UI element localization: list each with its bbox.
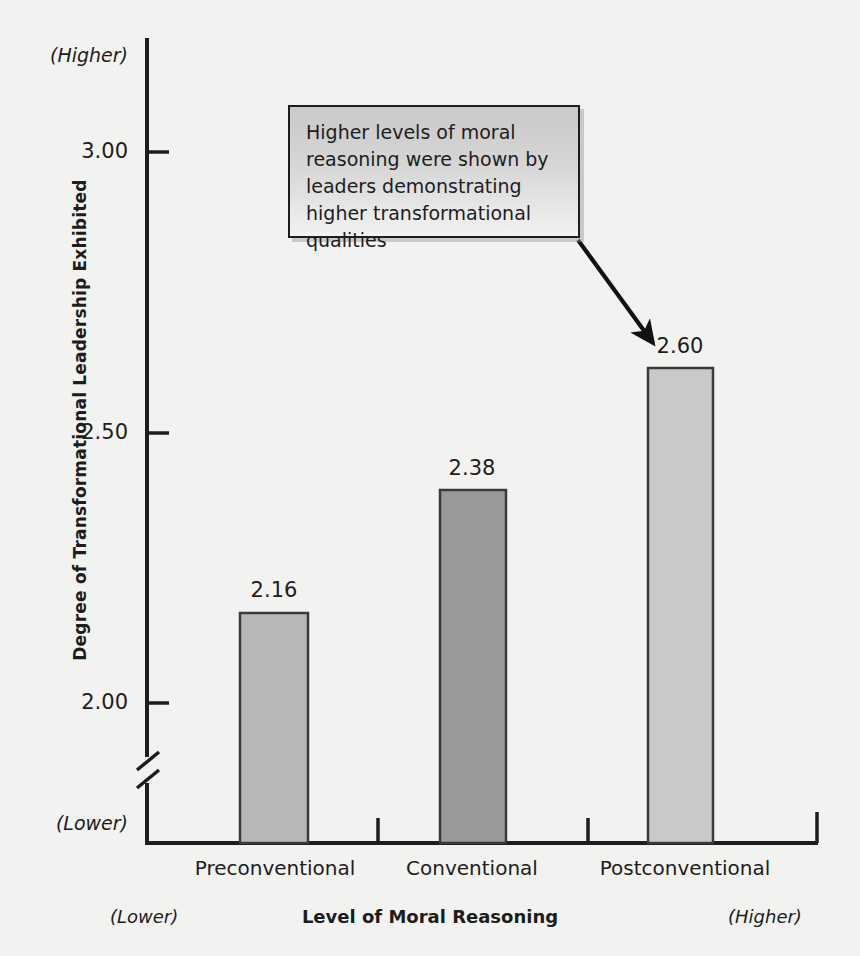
annotation-callout-text: Higher levels of moral reasoning were sh… [306, 119, 568, 254]
y-axis-higher-marker: (Higher) [28, 44, 128, 66]
bar-value-label-postconventional: 2.60 [620, 334, 740, 358]
bar-value-label-conventional: 2.38 [412, 456, 532, 480]
bar-postconventional[interactable] [648, 368, 713, 843]
x-category-label-conventional: Conventional [367, 856, 577, 880]
x-axis-title: Level of Moral Reasoning [230, 906, 630, 927]
x-axis-lower-marker: (Lower) [110, 906, 178, 927]
bar-conventional[interactable] [440, 490, 506, 843]
annotation-callout-box: Higher levels of moral reasoning were sh… [288, 105, 580, 238]
y-tick-label-3-00: 3.00 [18, 139, 128, 163]
bar-preconventional[interactable] [240, 613, 308, 843]
x-category-label-preconventional: Preconventional [160, 856, 390, 880]
chart-figure: Degree of Transformational Leadership Ex… [0, 0, 860, 956]
bar-value-label-preconventional: 2.16 [214, 578, 334, 602]
x-category-label-postconventional: Postconventional [570, 856, 800, 880]
x-axis-higher-marker: (Higher) [728, 906, 802, 927]
y-tick-label-2-00: 2.00 [18, 690, 128, 714]
y-axis-lower-marker: (Lower) [28, 812, 128, 834]
y-tick-label-2-50: 2.50 [18, 420, 128, 444]
